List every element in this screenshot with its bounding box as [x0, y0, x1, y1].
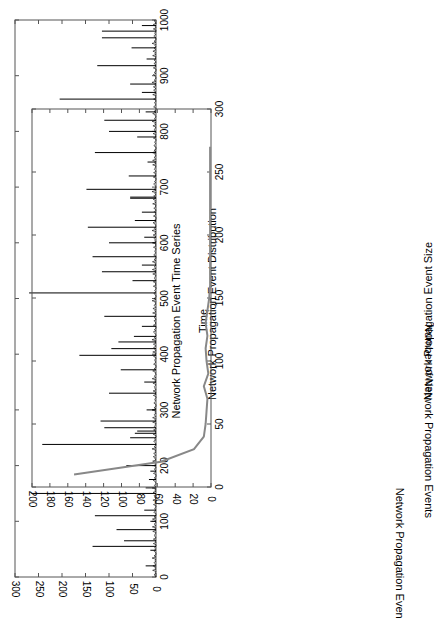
x-tick-label: 250: [214, 163, 225, 180]
chart1-title: Network Propagation Event Time Series: [170, 223, 182, 419]
y-tick-label: 60: [153, 493, 164, 505]
y-tick-label: 120: [99, 491, 110, 508]
x-tick-label: 700: [159, 178, 170, 195]
y-tick-label: 0: [151, 586, 162, 592]
chart2-y-label: Number of Network Propagation Events: [423, 324, 434, 518]
x-tick-label: 1000: [159, 8, 170, 31]
y-tick-label: 20: [188, 493, 199, 505]
x-tick-label: 200: [214, 226, 225, 243]
y-tick-label: 200: [57, 581, 68, 598]
rotated-figure-page: Network Propagation Event Time Series 01…: [0, 0, 434, 619]
x-tick-label: 300: [214, 100, 225, 117]
y-tick-label: 160: [63, 491, 74, 508]
chart2-line: [74, 147, 210, 475]
y-tick-label: 200: [27, 491, 38, 508]
y-tick-label: 250: [34, 581, 45, 598]
y-tick-label: 100: [117, 491, 128, 508]
x-tick-label: 500: [159, 290, 170, 307]
figure-canvas: Network Propagation Event Time Series 01…: [0, 0, 434, 619]
y-tick-label: 140: [81, 491, 92, 508]
y-tick-label: 50: [128, 583, 139, 595]
chart1-y-label: Network Propagation Event Size: [394, 488, 406, 619]
chart1-axes: 0100200300400500600700800900100005010015…: [10, 8, 170, 597]
y-tick-label: 180: [45, 491, 56, 508]
plot-frame: [32, 109, 211, 487]
x-tick-label: 300: [159, 401, 170, 418]
x-tick-label: 0: [159, 574, 170, 580]
distribution-chart: Network Propagation Event Distribution 0…: [27, 100, 434, 518]
x-tick-label: 0: [214, 484, 225, 490]
x-tick-label: 150: [214, 289, 225, 306]
x-tick-label: 900: [159, 67, 170, 84]
x-tick-label: 100: [159, 513, 170, 530]
y-tick-label: 80: [135, 493, 146, 505]
y-tick-label: 0: [206, 496, 217, 502]
x-tick-label: 100: [214, 352, 225, 369]
y-tick-label: 150: [81, 581, 92, 598]
y-tick-label: 100: [104, 581, 115, 598]
distribution-line: [74, 147, 210, 475]
y-tick-label: 300: [10, 581, 21, 598]
x-tick-label: 600: [159, 234, 170, 251]
x-tick-label: 800: [159, 123, 170, 140]
y-tick-label: 40: [171, 493, 182, 505]
x-tick-label: 400: [159, 345, 170, 362]
x-tick-label: 50: [214, 418, 225, 430]
